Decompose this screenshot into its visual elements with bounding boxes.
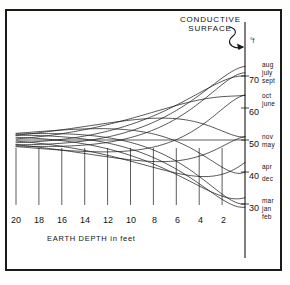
month-label-sept: sept [262, 78, 275, 85]
callout-line-2: SURFACE [180, 24, 240, 33]
x-axis-label-x12: 12 [103, 216, 113, 225]
y-axis-label-y70: 70 [249, 76, 259, 85]
month-label-july: july [262, 70, 273, 77]
month-label-apr: apr [262, 164, 272, 171]
curve-oct [16, 95, 245, 139]
callout-line-1: CONDUCTIVE [180, 15, 240, 24]
x-axis-label-x6: 6 [175, 216, 180, 225]
month-label-may: may [262, 142, 275, 149]
x-axis-label-x18: 18 [34, 216, 44, 225]
x-axis-label-x20: 20 [11, 216, 21, 225]
x-axis-label-x14: 14 [80, 216, 90, 225]
curve-aug [16, 66, 245, 144]
unit-label: °f [250, 38, 254, 45]
x-axis-label-x2: 2 [221, 216, 226, 225]
curve-sept [16, 76, 245, 143]
conductive-surface-callout: CONDUCTIVE SURFACE [180, 15, 240, 33]
month-label-dec: dec [262, 176, 273, 183]
curve-june [16, 95, 245, 152]
month-label-feb: feb [262, 214, 272, 221]
x-axis-label-x8: 8 [152, 216, 157, 225]
month-label-aug: aug [262, 62, 273, 69]
x-axis-label-x16: 16 [57, 216, 67, 225]
x-axis-ticks [16, 148, 222, 205]
plot-area [0, 0, 290, 285]
month-label-june: june [262, 101, 275, 108]
month-label-oct: oct [262, 93, 271, 100]
month-label-jan: jan [262, 206, 271, 213]
month-label-nov: nov [262, 134, 273, 141]
month-label-mar: mar [262, 198, 274, 205]
x-axis-title: EARTH DEPTH in feet [47, 235, 136, 243]
x-axis-label-x10: 10 [126, 216, 136, 225]
y-axis-label-y30: 30 [249, 204, 259, 213]
y-axis-label-y50: 50 [249, 140, 259, 149]
curve-nov [16, 118, 245, 137]
x-axis-label-x4: 4 [198, 216, 203, 225]
y-axis-label-y60: 60 [249, 108, 259, 117]
y-axis-label-y40: 40 [249, 172, 259, 181]
chart-figure: CONDUCTIVE SURFACE °f EARTH DEPTH in fee… [0, 0, 290, 285]
callout-arrowhead-icon [237, 44, 244, 51]
